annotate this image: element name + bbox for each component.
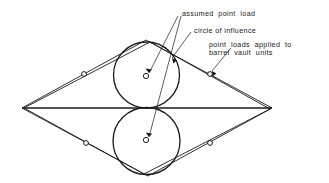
barrel-vault-load-diagram: assumed point load circle of influence p… (0, 0, 329, 183)
load-marker-upper-center-icon[interactable] (143, 73, 148, 78)
load-marker-upper-left-icon[interactable] (82, 72, 87, 77)
label-circle-of-influence: circle of influence (194, 26, 256, 35)
diagram-background (0, 0, 329, 183)
diagram-canvas: assumed point load circle of influence p… (0, 0, 329, 183)
load-marker-lower-left-icon[interactable] (84, 141, 89, 146)
load-marker-lower-center-icon[interactable] (143, 137, 148, 142)
label-point-loads-line2: barrel vault units (209, 48, 273, 57)
load-marker-lower-right-icon[interactable] (208, 141, 213, 146)
load-marker-upper-right-icon[interactable] (208, 72, 213, 77)
label-assumed-point-load: assumed point load (182, 9, 255, 18)
